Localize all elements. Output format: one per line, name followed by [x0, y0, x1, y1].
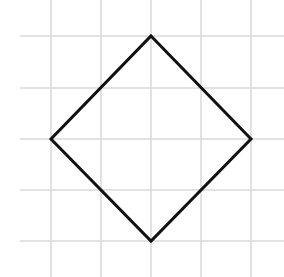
diagram-canvas — [0, 0, 284, 277]
